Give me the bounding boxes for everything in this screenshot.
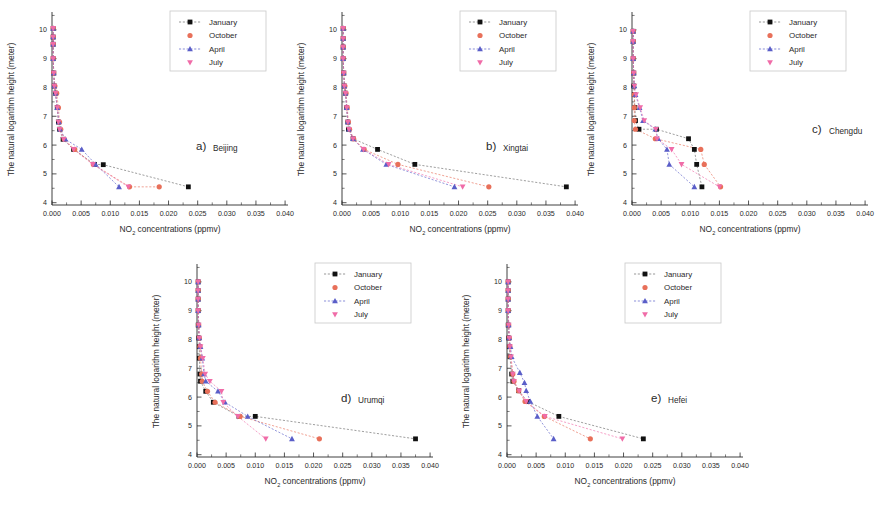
- x-tick-label: 0.025: [644, 462, 662, 470]
- data-point-square: [375, 147, 380, 152]
- x-tick-label: 0.025: [334, 462, 352, 470]
- y-tick-label: 6: [333, 142, 337, 150]
- legend: JanuaryOctoberAprilJuly: [750, 11, 846, 71]
- panel-city-name: Hefei: [668, 396, 687, 405]
- y-axis-title: The natural logarithm height (meter): [151, 294, 161, 428]
- x-tick-label: 0.020: [615, 462, 633, 470]
- legend-label-january: January: [209, 18, 237, 27]
- x-tick-label: 0.035: [247, 210, 265, 218]
- y-tick-label: 10: [184, 278, 192, 286]
- x-tick-label: 0.035: [537, 210, 555, 218]
- panel-d: 0.0000.0050.0100.0150.0200.0250.0300.035…: [145, 252, 445, 504]
- series-line-october: [508, 282, 590, 439]
- x-tick-label: 0.040: [421, 462, 439, 470]
- x-tick-label: 0.000: [623, 210, 641, 218]
- y-tick-label: 8: [623, 84, 627, 92]
- chart-chengdu: 0.0000.0050.0100.0150.0200.0250.0300.035…: [580, 0, 880, 252]
- series-line-january: [633, 31, 702, 187]
- series-line-july: [508, 282, 622, 439]
- data-point-square: [333, 272, 338, 277]
- panel-letter: d): [341, 392, 351, 404]
- data-point-circle: [212, 400, 217, 405]
- y-tick-label: 10: [494, 278, 502, 286]
- data-point-circle: [588, 436, 593, 441]
- y-tick-label: 10: [329, 26, 337, 34]
- series-points-april: [195, 279, 295, 441]
- data-point-square: [186, 184, 191, 189]
- legend-label-october: October: [789, 31, 817, 40]
- data-point-circle: [633, 127, 638, 132]
- figure-no2-vertical-profiles: 0.0000.0050.0100.0150.0200.0250.0300.035…: [0, 0, 895, 505]
- x-tick-label: 0.030: [798, 210, 816, 218]
- data-point-circle: [698, 147, 703, 152]
- data-point-square: [641, 436, 646, 441]
- data-point-circle: [767, 33, 772, 38]
- x-tick-label: 0.030: [363, 462, 381, 470]
- panel-b: 0.0000.0050.0100.0150.0200.0250.0300.035…: [290, 0, 590, 252]
- x-tick-label: 0.010: [101, 210, 119, 218]
- data-point-circle: [395, 162, 400, 167]
- data-point-triangle-down: [263, 437, 269, 442]
- series-line-april: [633, 31, 694, 187]
- data-point-square: [412, 162, 417, 167]
- y-tick-label: 5: [333, 170, 337, 178]
- legend-label-january: January: [789, 18, 817, 27]
- data-point-circle: [702, 162, 707, 167]
- panel-c: 0.0000.0050.0100.0150.0200.0250.0300.035…: [580, 0, 880, 252]
- chart-beijing: 0.0000.0050.0100.0150.0200.0250.0300.035…: [0, 0, 300, 252]
- legend-label-october: October: [209, 31, 237, 40]
- panel-city-name: Xingtai: [503, 144, 528, 153]
- data-point-square: [643, 272, 648, 277]
- legend-label-july: July: [499, 58, 513, 67]
- data-point-circle: [632, 118, 637, 123]
- series-points-october: [506, 279, 593, 441]
- x-tick-label: 0.020: [160, 210, 178, 218]
- x-tick-label: 0.025: [769, 210, 787, 218]
- series-line-october: [198, 282, 319, 439]
- data-point-triangle-down: [460, 185, 466, 190]
- data-point-triangle-up: [116, 184, 122, 189]
- x-tick-label: 0.020: [740, 210, 758, 218]
- x-tick-label: 0.020: [450, 210, 468, 218]
- panel-label-beijing: a)Beijing: [196, 140, 238, 153]
- series-points-july: [50, 26, 131, 190]
- series-line-october: [633, 31, 720, 187]
- x-tick-label: 0.000: [333, 210, 351, 218]
- legend: JanuaryOctoberAprilJuly: [625, 263, 721, 323]
- y-axis-title: The natural logarithm height (meter): [296, 42, 306, 176]
- series-points-october: [631, 29, 724, 190]
- x-tick-label: 0.005: [362, 210, 380, 218]
- x-tick-label: 0.010: [246, 462, 264, 470]
- x-tick-label: 0.015: [131, 210, 149, 218]
- legend-label-january: January: [354, 270, 382, 279]
- x-axis-title: NO2 concentrations (ppmv): [700, 224, 801, 236]
- legend-label-october: October: [664, 283, 692, 292]
- data-point-triangle-down: [619, 437, 625, 442]
- data-point-square: [253, 414, 258, 419]
- y-tick-label: 4: [333, 199, 337, 207]
- data-point-square: [700, 184, 705, 189]
- x-tick-label: 0.005: [72, 210, 90, 218]
- data-point-triangle-up: [517, 370, 523, 375]
- data-point-triangle-up: [666, 161, 672, 166]
- series-line-january: [53, 28, 188, 186]
- x-axis-title: NO2 concentrations (ppmv): [410, 224, 511, 236]
- data-point-triangle-up: [245, 413, 251, 418]
- y-tick-label: 5: [43, 170, 47, 178]
- x-tick-label: 0.015: [586, 462, 604, 470]
- series-points-october: [196, 279, 322, 441]
- x-tick-label: 0.035: [392, 462, 410, 470]
- legend: JanuaryOctoberAprilJuly: [170, 11, 266, 71]
- data-point-square: [692, 147, 697, 152]
- x-tick-label: 0.040: [856, 210, 874, 218]
- legend: JanuaryOctoberAprilJuly: [460, 11, 556, 71]
- y-tick-label: 9: [498, 307, 502, 315]
- y-tick-label: 6: [498, 394, 502, 402]
- chart-xingtai: 0.0000.0050.0100.0150.0200.0250.0300.035…: [290, 0, 590, 252]
- x-tick-label: 0.030: [218, 210, 236, 218]
- data-point-circle: [632, 105, 637, 110]
- data-point-square: [768, 20, 773, 25]
- data-point-circle: [157, 184, 162, 189]
- series-line-july: [343, 28, 462, 186]
- legend: JanuaryOctoberAprilJuly: [315, 263, 411, 323]
